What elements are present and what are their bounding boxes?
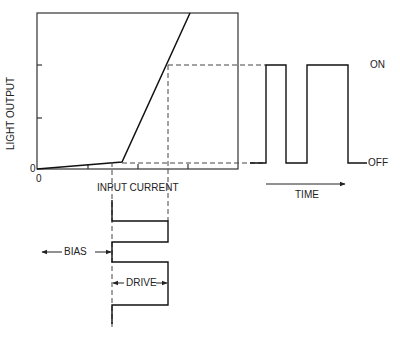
origin-y-label: 0 — [30, 164, 36, 174]
on-label: ON — [370, 60, 385, 70]
output-waveform — [250, 65, 367, 163]
origin-x-label: 0 — [36, 174, 42, 184]
drive-label: DRIVE — [126, 278, 157, 288]
diagram-canvas — [0, 0, 400, 344]
led-transfer-diagram: LIGHT OUTPUT 0 0 INPUT CURRENT ON OFF TI… — [0, 0, 400, 344]
input-waveform — [112, 200, 168, 324]
plot-frame — [37, 13, 238, 169]
transfer-curve — [37, 13, 190, 169]
bias-label: BIAS — [64, 247, 87, 257]
x-axis-label: INPUT CURRENT — [97, 183, 178, 193]
time-label: TIME — [295, 190, 319, 200]
off-label: OFF — [368, 158, 388, 168]
y-axis-label: LIGHT OUTPUT — [5, 77, 16, 150]
